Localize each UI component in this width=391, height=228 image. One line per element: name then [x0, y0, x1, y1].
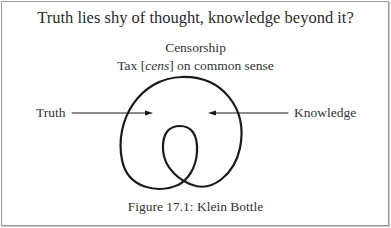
- klein-bottle-outer-curve: [121, 77, 242, 189]
- klein-bottle-diagram: [0, 0, 391, 228]
- figure-caption: Figure 17.1: Klein Bottle: [0, 199, 391, 215]
- knowledge-arrowhead-icon: [208, 111, 216, 116]
- truth-arrowhead-icon: [145, 111, 153, 116]
